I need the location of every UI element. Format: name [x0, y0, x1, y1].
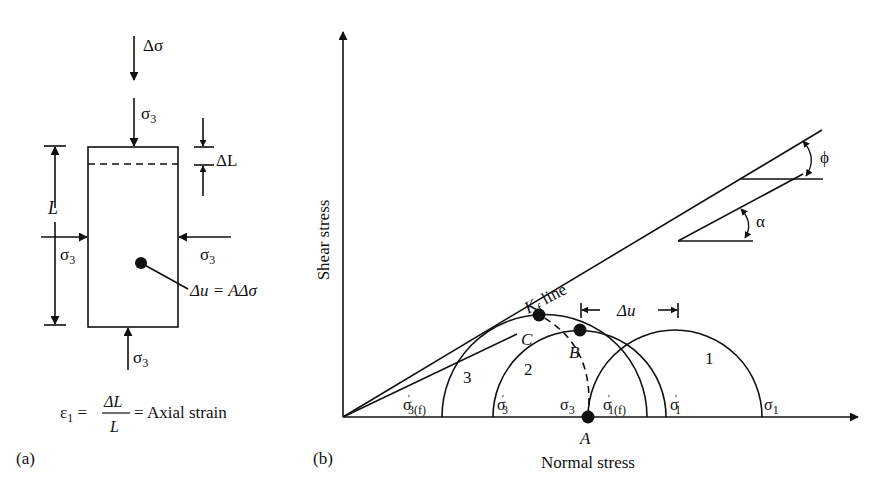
panel-b-label: (b) [313, 449, 333, 468]
delta-u-label: Δu [616, 301, 635, 320]
sigma3-left-label: σ3 [60, 245, 75, 267]
soil-specimen [88, 147, 178, 327]
triaxial-diagram: Δσ σ3 σ3 σ3 σ3 L ΔL Δu = AΔσ ε1 = ΔL L =… [0, 0, 882, 498]
mohr-circle-3 [442, 315, 647, 418]
y-axis-label: Shear stress [314, 200, 333, 281]
sigma1-total-label: σ1 [764, 396, 779, 417]
point-a-label: A [579, 429, 591, 448]
point-a [582, 411, 595, 424]
phi-angle-arc [803, 141, 811, 176]
x-axis-label: Normal stress [541, 453, 635, 472]
mohr-circle-2 [493, 331, 666, 418]
point-c-label: C [521, 330, 533, 349]
sigma3-total-label: σ3 [560, 396, 575, 417]
circle-1-label: 1 [705, 349, 714, 368]
delta-sigma-label: Δσ [143, 36, 163, 55]
alpha-angle-arc [741, 209, 749, 238]
circle-2-label: 2 [524, 360, 533, 379]
delta-length-label: ΔL [216, 151, 237, 170]
sigma3-bottom-label: σ3 [133, 348, 148, 370]
strain-numerator: ΔL [103, 393, 122, 410]
panel-b [343, 32, 858, 424]
alpha-label: α [756, 212, 765, 231]
panel-a-label: (a) [16, 449, 35, 468]
length-label: L [47, 198, 58, 218]
point-b-label: B [569, 343, 580, 362]
sigma1-effective-label: σ′1 [670, 392, 681, 417]
phi-label: ϕ [820, 148, 829, 167]
circle-3-label: 3 [463, 368, 472, 387]
strain-denominator: L [109, 418, 119, 435]
point-b [574, 324, 587, 337]
sigma1f-label: σ′1(f) [603, 392, 626, 417]
kf-line-lower [343, 334, 517, 417]
sigma3-top-label: σ3 [141, 104, 156, 126]
strain-lhs: ε1 = [60, 403, 87, 425]
sigma3-right-label: σ3 [200, 245, 215, 267]
sigma3f-label: σ′3(f) [403, 392, 426, 417]
pore-pressure-leader [141, 263, 188, 289]
kf-line-upper [678, 174, 803, 241]
pore-pressure-label: Δu = AΔσ [189, 281, 258, 300]
sigma3-effective-label: σ′3 [497, 392, 508, 417]
strain-rhs: = Axial strain [134, 403, 227, 422]
